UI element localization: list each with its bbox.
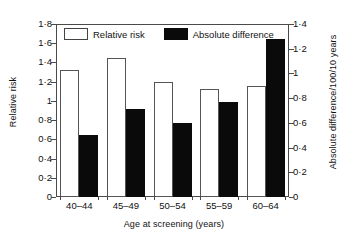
x-axis-category-label: 40–44 bbox=[55, 200, 103, 211]
x-axis-category-label: 60–64 bbox=[242, 200, 290, 211]
bar-relative-risk bbox=[200, 89, 219, 197]
bar-absolute-difference bbox=[266, 39, 285, 197]
bar-group bbox=[60, 24, 98, 197]
bar-group bbox=[107, 24, 145, 197]
y-axis-right-tick-label: 1·4 bbox=[293, 19, 323, 29]
y-axis-right-tick-mark bbox=[289, 49, 294, 50]
y-axis-left-tick-label: 0·2 bbox=[22, 173, 52, 183]
bar-relative-risk bbox=[247, 86, 266, 197]
y-axis-left-tick-label: 0 bbox=[22, 192, 52, 202]
y-axis-right-tick-label: 0·4 bbox=[293, 143, 323, 153]
x-axis-category-label: 50–54 bbox=[149, 200, 197, 211]
y-axis-right-tick-label: 1·2 bbox=[293, 44, 323, 54]
bar-group bbox=[154, 24, 192, 197]
y-axis-right-tick-label: 0·6 bbox=[293, 118, 323, 128]
y-axis-right-tick-mark bbox=[289, 73, 294, 74]
bar-relative-risk bbox=[60, 70, 79, 197]
y-axis-left-tick-label: 0·8 bbox=[22, 115, 52, 125]
legend-item-absolute-difference: Absolute difference bbox=[164, 28, 274, 40]
x-axis-tick-mark bbox=[145, 196, 146, 200]
x-axis-tick-mark bbox=[238, 196, 239, 200]
x-axis-tick-mark bbox=[98, 196, 99, 200]
x-axis-tick-mark bbox=[154, 196, 155, 200]
x-axis-category-label: 55–59 bbox=[195, 200, 243, 211]
y-axis-left-tick-label: 0·6 bbox=[22, 134, 52, 144]
y-axis-right-tick-label: 0·2 bbox=[293, 167, 323, 177]
y-axis-right-tick-label: 1 bbox=[293, 68, 323, 78]
x-axis-tick-mark bbox=[285, 196, 286, 200]
y-axis-left-tick-label: 1 bbox=[22, 96, 52, 106]
y-axis-left-title: Relative risk bbox=[8, 42, 18, 162]
bar-absolute-difference bbox=[173, 123, 192, 197]
x-axis-tick-mark bbox=[192, 196, 193, 200]
legend-swatch-filled-icon bbox=[164, 28, 188, 40]
x-axis-tick-mark bbox=[200, 196, 201, 200]
x-axis-title: Age at screening (years) bbox=[0, 219, 348, 229]
y-axis-right-tick-marks bbox=[289, 24, 294, 197]
bar-absolute-difference bbox=[219, 102, 238, 197]
chart-legend: Relative risk Absolute difference bbox=[64, 28, 274, 40]
y-axis-left-tick-label: 1·6 bbox=[22, 38, 52, 48]
y-axis-right-tick-mark bbox=[289, 172, 294, 173]
bar-relative-risk bbox=[154, 82, 173, 197]
bar-group bbox=[200, 24, 238, 197]
bar-group bbox=[247, 24, 285, 197]
y-axis-right-tick-mark bbox=[289, 24, 294, 25]
y-axis-right-title: Absolute difference/100/10 years bbox=[328, 12, 338, 192]
y-axis-right-tick-mark bbox=[289, 197, 294, 198]
legend-swatch-open-icon bbox=[64, 28, 88, 40]
bar-absolute-difference bbox=[126, 109, 145, 197]
legend-item-relative-risk: Relative risk bbox=[64, 28, 145, 40]
y-axis-left-tick-label: 1·4 bbox=[22, 57, 52, 67]
x-axis-tick-mark bbox=[107, 196, 108, 200]
y-axis-left-tick-label: 1·2 bbox=[22, 77, 52, 87]
y-axis-left-tick-label: 0·4 bbox=[22, 154, 52, 164]
y-axis-right-tick-mark bbox=[289, 123, 294, 124]
x-axis-category-labels: 40–4445–4950–5455–5960–64 bbox=[56, 200, 289, 214]
y-axis-right-tick-mark bbox=[289, 98, 294, 99]
y-axis-left-tick-label: 1·8 bbox=[22, 19, 52, 29]
bar-absolute-difference bbox=[79, 135, 98, 197]
y-axis-right-tick-label: 0·8 bbox=[293, 93, 323, 103]
y-axis-right-tick-labels: 00·20·40·60·811·21·4 bbox=[293, 24, 325, 197]
legend-label-relative-risk: Relative risk bbox=[93, 29, 145, 40]
x-axis-category-label: 45–49 bbox=[102, 200, 150, 211]
bars-layer bbox=[56, 24, 289, 197]
y-axis-left-tick-labels: 00·20·40·60·811·21·41·61·8 bbox=[20, 24, 52, 197]
bar-chart: Relative risk Absolute difference/100/10… bbox=[0, 0, 348, 241]
y-axis-right-tick-label: 0 bbox=[293, 192, 323, 202]
x-axis-tick-mark bbox=[247, 196, 248, 200]
y-axis-right-tick-mark bbox=[289, 148, 294, 149]
y-axis-left-tick-mark bbox=[51, 197, 56, 198]
legend-label-absolute-difference: Absolute difference bbox=[193, 29, 274, 40]
x-axis-tick-mark bbox=[60, 196, 61, 200]
bar-relative-risk bbox=[107, 58, 126, 197]
